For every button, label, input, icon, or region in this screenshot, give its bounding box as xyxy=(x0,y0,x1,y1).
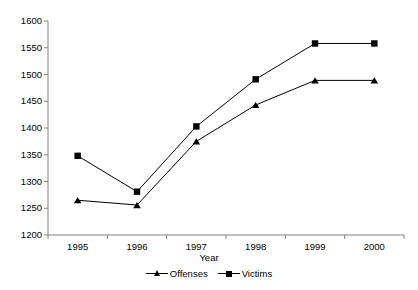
data-point-marker xyxy=(371,40,377,46)
x-axis-tick-label: 2000 xyxy=(345,242,404,252)
legend-label: Victims xyxy=(242,268,272,279)
y-axis-tick-label: 1500 xyxy=(8,70,42,80)
line-chart: 120012501300135014001450150015501600 199… xyxy=(0,0,418,290)
x-axis-tick-label: 1996 xyxy=(107,242,166,252)
x-axis-tick-label: 1998 xyxy=(226,242,285,252)
y-axis-tick-label: 1350 xyxy=(8,150,42,160)
triangle-marker-icon xyxy=(146,269,168,278)
x-axis-title: Year xyxy=(0,252,418,263)
legend-entry-offenses: Offenses xyxy=(146,268,208,279)
data-point-marker xyxy=(134,188,140,194)
y-axis-tick-label: 1200 xyxy=(8,230,42,240)
y-axis-tick-label: 1600 xyxy=(8,16,42,26)
data-point-marker xyxy=(193,123,199,129)
data-point-marker xyxy=(252,76,258,82)
x-axis-tick-label: 1997 xyxy=(167,242,226,252)
axis-lines xyxy=(48,21,404,235)
x-axis-tick-label: 1999 xyxy=(285,242,344,252)
y-axis-ticks xyxy=(44,21,48,235)
series-line-offenses xyxy=(78,80,375,205)
legend-label: Offenses xyxy=(170,268,208,279)
legend-entry-victims: Victims xyxy=(218,268,272,279)
y-axis-tick-label: 1400 xyxy=(8,123,42,133)
data-point-marker xyxy=(252,102,260,108)
y-axis-tick-label: 1300 xyxy=(8,177,42,187)
x-axis-tick-label: 1995 xyxy=(48,242,107,252)
data-point-marker xyxy=(74,153,80,159)
data-point-marker xyxy=(312,40,318,46)
square-marker-icon xyxy=(218,269,240,278)
x-axis-ticks xyxy=(48,235,404,239)
y-axis-tick-label: 1550 xyxy=(8,43,42,53)
chart-legend: OffensesVictims xyxy=(0,268,418,279)
data-series-group xyxy=(74,40,378,208)
y-axis-tick-label: 1250 xyxy=(8,203,42,213)
series-line-victims xyxy=(78,43,375,191)
y-axis-tick-label: 1450 xyxy=(8,96,42,106)
